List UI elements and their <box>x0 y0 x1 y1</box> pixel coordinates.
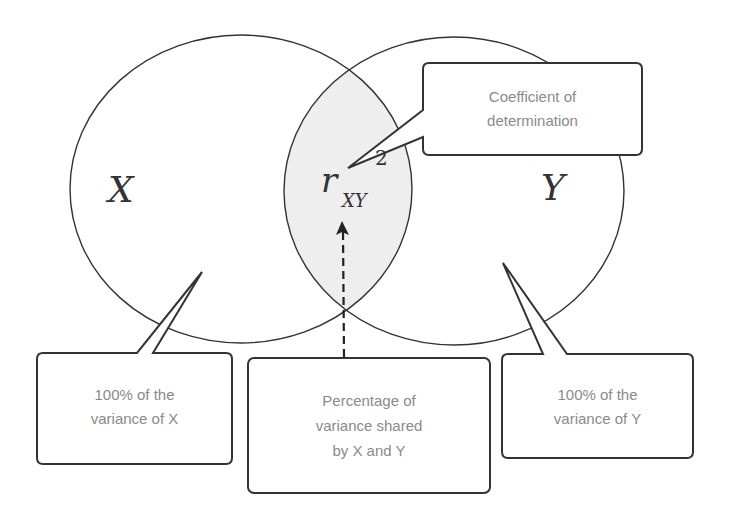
callout-line: by X and Y <box>248 438 490 463</box>
callout-coefficient-text: Coefficient of determination <box>423 85 642 133</box>
set-label-x: X <box>108 172 134 208</box>
callout-variance-y-text: 100% of the variance of Y <box>502 383 693 431</box>
callout-variance-x-shape <box>37 272 232 464</box>
callout-line: Coefficient of <box>423 85 642 109</box>
callout-line: variance of Y <box>502 407 693 431</box>
callout-line: 100% of the <box>502 383 693 407</box>
callout-line: variance shared <box>248 413 490 438</box>
callout-line: determination <box>423 109 642 133</box>
callout-variance-x-text: 100% of the variance of X <box>37 383 232 431</box>
callout-line: Percentage of <box>248 388 490 413</box>
overlap-symbol-r: r <box>321 163 337 197</box>
overlap-superscript-2: 2 <box>375 148 388 168</box>
set-label-y: Y <box>541 170 565 206</box>
callout-line: variance of X <box>37 407 232 431</box>
callout-line: 100% of the <box>37 383 232 407</box>
callout-shared-text: Percentage of variance shared by X and Y <box>248 388 490 463</box>
venn-diagram: X Y r XY 2 Coefficient of determination … <box>0 0 730 513</box>
overlap-subscript-xy: XY <box>342 192 367 210</box>
